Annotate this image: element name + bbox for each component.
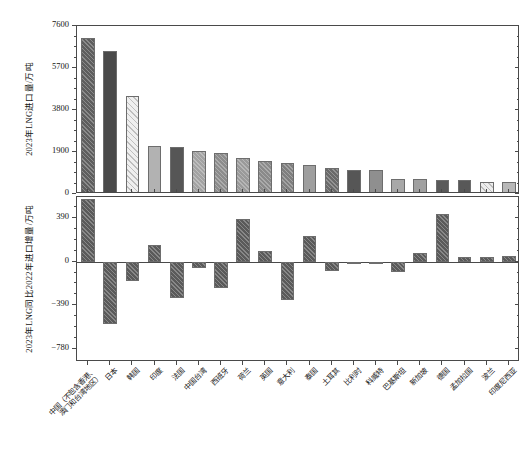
x-tick-mark — [242, 361, 243, 365]
x-tick-mark — [286, 361, 287, 365]
plot-panel-import-volume — [76, 25, 519, 193]
x-tick-mark-top — [464, 189, 465, 193]
x-tick-mark-top — [309, 189, 310, 193]
bar-yoy-increment-2 — [126, 262, 140, 281]
x-tick-mark — [419, 361, 420, 365]
x-tick-mark — [154, 361, 155, 365]
bar-yoy-increment-5 — [192, 262, 206, 268]
y-tick-mark — [72, 151, 76, 152]
y-minor-tick-right — [517, 162, 519, 163]
y-minor-tick-right — [517, 120, 519, 121]
y-minor-tick — [74, 315, 76, 316]
x-tick-mark — [397, 361, 398, 365]
x-tick-mark-top — [508, 189, 509, 193]
x-tick-mark-top — [87, 189, 88, 193]
y-minor-tick-right — [517, 46, 519, 47]
bar-import-volume-14 — [391, 179, 405, 193]
bar-yoy-increment-0 — [81, 199, 95, 261]
x-tick-mark — [198, 361, 199, 365]
y-minor-tick-right — [517, 57, 519, 58]
y-minor-tick — [74, 172, 76, 173]
y-minor-tick-right — [517, 99, 519, 100]
bar-yoy-increment-3 — [148, 245, 162, 262]
bar-import-volume-5 — [192, 151, 206, 193]
bar-yoy-increment-4 — [170, 262, 184, 299]
x-tick-mark — [176, 361, 177, 365]
y-minor-tick-right — [517, 183, 519, 184]
y-tick-mark — [72, 348, 76, 349]
y-minor-tick — [74, 130, 76, 131]
zero-baseline — [77, 262, 518, 263]
y-minor-tick — [74, 120, 76, 121]
y-tick-mark — [72, 109, 76, 110]
y-minor-tick — [74, 57, 76, 58]
y-tick-mark — [72, 67, 76, 68]
y-minor-tick-right — [517, 206, 519, 207]
y-tick-mark-right — [515, 151, 519, 152]
bar-yoy-increment-10 — [303, 236, 317, 262]
x-tick-mark — [486, 361, 487, 365]
x-tick-mark-top — [176, 189, 177, 193]
y-minor-tick — [74, 99, 76, 100]
y-minor-tick — [74, 250, 76, 251]
y-minor-tick-right — [517, 282, 519, 283]
bar-yoy-increment-11 — [325, 262, 339, 271]
y-minor-tick-right — [517, 36, 519, 37]
y-minor-tick — [74, 88, 76, 89]
x-tick-mark-top — [441, 189, 442, 193]
y-minor-tick — [74, 206, 76, 207]
x-tick-mark-top — [419, 189, 420, 193]
y-minor-tick-right — [517, 293, 519, 294]
x-tick-mark — [87, 361, 88, 365]
x-tick-mark-top — [264, 189, 265, 193]
bar-import-volume-15 — [413, 179, 427, 193]
y-tick-mark-right — [515, 109, 519, 110]
bar-import-volume-9 — [281, 163, 295, 193]
y-tick-mark — [72, 25, 76, 26]
y-minor-tick-right — [517, 239, 519, 240]
y-minor-tick-right — [517, 250, 519, 251]
bar-import-volume-1 — [103, 51, 117, 193]
x-tick-mark — [309, 361, 310, 365]
y-minor-tick — [74, 293, 76, 294]
figure-canvas: 019003800570076002023年LNG进口量/万吨−780−3900… — [0, 0, 529, 457]
y-tick-mark — [72, 304, 76, 305]
y-minor-tick — [74, 272, 76, 273]
y-tick-mark-right — [515, 67, 519, 68]
x-tick-mark — [375, 361, 376, 365]
bar-import-volume-2 — [126, 96, 140, 193]
y-minor-tick — [74, 46, 76, 47]
x-tick-mark — [464, 361, 465, 365]
y-minor-tick-right — [517, 326, 519, 327]
y-minor-tick-right — [517, 78, 519, 79]
y-tick-mark-right — [515, 348, 519, 349]
y-minor-tick — [74, 282, 76, 283]
x-tick-mark-top — [286, 189, 287, 193]
y-minor-tick-right — [517, 172, 519, 173]
bar-yoy-increment-13 — [369, 262, 383, 264]
y-tick-mark-right — [515, 217, 519, 218]
x-tick-mark — [441, 361, 442, 365]
bar-import-volume-0 — [81, 38, 95, 193]
bar-import-volume-4 — [170, 147, 184, 193]
y-minor-tick-right — [517, 315, 519, 316]
bar-yoy-increment-14 — [391, 262, 405, 273]
y-minor-tick-right — [517, 228, 519, 229]
x-tick-mark-top — [198, 189, 199, 193]
y-tick-mark-right — [515, 25, 519, 26]
x-tick-mark-top — [220, 189, 221, 193]
bar-yoy-increment-12 — [347, 262, 361, 264]
y-minor-tick — [74, 141, 76, 142]
x-tick-mark — [353, 361, 354, 365]
y-minor-tick-right — [517, 141, 519, 142]
y-axis-label-yoy-increment: 2023年LNG同比2022年进口增量/万吨 — [22, 196, 34, 361]
y-minor-tick-right — [517, 130, 519, 131]
y-tick-mark — [72, 217, 76, 218]
bar-yoy-increment-8 — [258, 251, 272, 262]
bar-import-volume-3 — [148, 146, 162, 193]
y-minor-tick — [74, 326, 76, 327]
x-tick-mark-top — [397, 189, 398, 193]
bar-yoy-increment-15 — [413, 253, 427, 262]
y-tick-mark-right — [515, 304, 519, 305]
x-tick-mark-top — [375, 189, 376, 193]
